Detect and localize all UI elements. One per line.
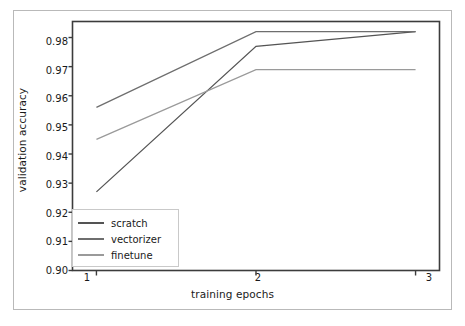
legend-item-vectorizer: vectorizer: [78, 231, 161, 247]
plot-area: [0, 0, 465, 326]
legend-item-finetune: finetune: [78, 247, 153, 263]
legend-swatch-scratch: [78, 222, 104, 224]
legend: scratch vectorizer finetune: [72, 209, 179, 267]
legend-label-scratch: scratch: [111, 218, 148, 229]
legend-item-scratch: scratch: [78, 215, 148, 231]
legend-label-vectorizer: vectorizer: [111, 234, 161, 245]
legend-swatch-vectorizer: [78, 238, 104, 240]
legend-swatch-finetune: [78, 254, 104, 256]
chart-figure: validation accuracy 0.90 0.91 0.92 0.93 …: [0, 0, 465, 326]
legend-label-finetune: finetune: [111, 250, 153, 261]
